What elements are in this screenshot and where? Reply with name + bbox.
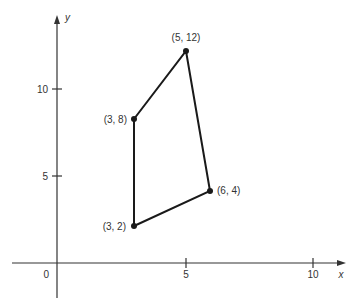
x-axis-label: x bbox=[338, 269, 345, 280]
x-tick-label-10: 10 bbox=[307, 269, 319, 280]
y-axis-label: y bbox=[64, 12, 71, 23]
y-tick-label-5: 5 bbox=[42, 171, 48, 182]
vertex-6-4 bbox=[207, 188, 213, 194]
y-tick-label-10: 10 bbox=[37, 84, 49, 95]
vertex-label-6-4: (6, 4) bbox=[217, 185, 240, 196]
coordinate-plane: 5 10 5 10 0 x y (3, 2) (6, 4) (5, 12) (3… bbox=[0, 0, 355, 305]
vertex-label-3-8: (3, 8) bbox=[104, 114, 127, 125]
vertex-label-3-2: (3, 2) bbox=[103, 221, 126, 232]
vertex-3-8 bbox=[131, 116, 137, 122]
y-axis-arrow-icon bbox=[54, 15, 60, 24]
vertex-5-12 bbox=[183, 48, 189, 54]
quadrilateral bbox=[134, 51, 210, 226]
x-tick-label-5: 5 bbox=[183, 269, 189, 280]
origin-label: 0 bbox=[43, 269, 49, 280]
vertex-3-2 bbox=[131, 223, 137, 229]
vertex-label-5-12: (5, 12) bbox=[172, 32, 201, 43]
x-axis-arrow-icon bbox=[337, 260, 346, 266]
